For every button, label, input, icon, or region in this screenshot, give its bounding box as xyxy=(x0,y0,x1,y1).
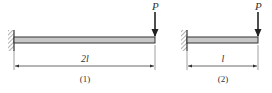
arrowhead-icon xyxy=(255,29,262,37)
beam xyxy=(187,37,258,43)
wall-hatch xyxy=(8,30,14,51)
load-label: P xyxy=(151,0,159,12)
figure-caption: (2) xyxy=(218,74,229,84)
cantilever-beams-diagram: P 2l (1) P l (2) xyxy=(0,0,272,93)
length-label: 2l xyxy=(81,53,89,64)
length-label: l xyxy=(222,53,225,64)
load-label: P xyxy=(254,0,262,12)
arrowhead-icon xyxy=(152,29,159,37)
figure-2: P l (2) xyxy=(181,0,262,84)
beam xyxy=(14,37,155,43)
figure-caption: (1) xyxy=(80,74,91,84)
figure-1: P 2l (1) xyxy=(8,0,159,84)
wall-hatch xyxy=(181,30,187,51)
